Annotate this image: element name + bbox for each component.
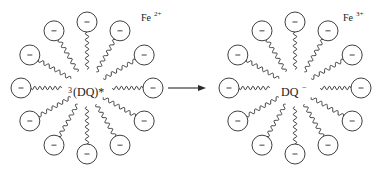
surfactant-molecule — [321, 78, 372, 98]
hydrocarbon-tail — [39, 96, 71, 116]
hydrocarbon-tail — [59, 104, 78, 136]
hydrocarbon-tail — [304, 40, 323, 72]
surfactant-molecule — [77, 107, 97, 164]
diagram-canvas: 3 (DQ)* Fe 2+ DQ − Fe 3+ — [0, 0, 380, 171]
hydrocarbon-tail — [247, 96, 279, 116]
hydrocarbon-tail — [85, 107, 88, 144]
arrowhead-icon — [198, 85, 206, 91]
surfactant-molecule — [311, 97, 362, 131]
hydrocarbon-tail — [58, 40, 78, 72]
hydrocarbon-tail — [303, 104, 323, 136]
hydrocarbon-tail — [103, 97, 135, 116]
hydrocarbon-tail — [31, 86, 62, 89]
hydrocarbon-tail — [95, 104, 115, 136]
surfactant-molecule — [285, 12, 305, 69]
surfactant-molecule — [96, 21, 130, 72]
surfactant-molecule — [219, 78, 270, 98]
surfactant-molecule — [20, 45, 71, 79]
hydrocarbon-tail — [247, 60, 279, 79]
surfactant-molecule — [103, 97, 154, 131]
hydrocarbon-tail — [103, 59, 135, 79]
surfactant-molecule — [252, 104, 286, 155]
right-center-label: DQ — [281, 85, 299, 99]
reaction-arrow — [168, 85, 206, 91]
left-ion-charge: 2+ — [154, 10, 162, 18]
hydrocarbon-tail — [239, 86, 270, 89]
hydrocarbon-tail — [113, 86, 144, 89]
hydrocarbon-tail — [311, 97, 343, 116]
hydrocarbon-tail — [39, 60, 71, 79]
left-center-label: (DQ)* — [73, 85, 104, 99]
surfactant-molecule — [44, 104, 78, 155]
hydrocarbon-tail — [96, 40, 115, 72]
right-ion-charge: 3+ — [356, 10, 364, 18]
hydrocarbon-tail — [266, 40, 286, 72]
hydrocarbon-tail — [267, 104, 286, 136]
hydrocarbon-tail — [293, 32, 296, 69]
hydrocarbon-tail — [321, 86, 352, 89]
hydrocarbon-tail — [293, 107, 296, 144]
triplet-superscript: 3 — [68, 86, 72, 95]
surfactant-molecule — [77, 12, 97, 69]
right-ion-label: Fe — [343, 12, 354, 23]
surfactant-molecule — [113, 78, 164, 98]
hydrocarbon-tail — [85, 32, 88, 69]
surfactant-molecule — [304, 21, 338, 72]
surfactant-molecule — [11, 78, 62, 98]
surfactant-molecule — [285, 107, 305, 164]
surfactant-molecule — [228, 45, 279, 79]
hydrocarbon-tail — [311, 59, 343, 79]
left-ion-label: Fe — [141, 12, 152, 23]
right-center-charge: − — [302, 83, 307, 92]
